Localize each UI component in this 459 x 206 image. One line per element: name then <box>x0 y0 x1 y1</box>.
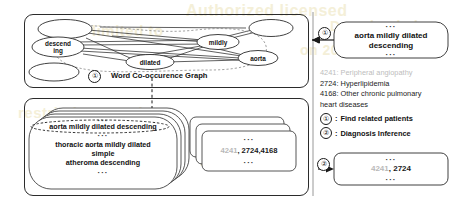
legend-item-1: ① : Find related patients <box>320 113 456 125</box>
graph-node-empty-top <box>38 20 92 39</box>
graph-node-label-aorta: aorta <box>241 55 275 62</box>
result-value-dark: 2724 <box>393 164 411 173</box>
result-box-bottom-dots: ··· <box>334 175 448 185</box>
code-card-top-dots: ··· <box>202 135 296 145</box>
code-value-dark: 2724,4168 <box>242 146 278 155</box>
diagnosis-item-0: 4241: Peripheral angiopathy <box>320 68 456 79</box>
result-value-muted: 4241 <box>371 164 389 173</box>
legend-label-1: Find related patients <box>340 114 412 123</box>
graph-node-empty-bottom <box>29 63 79 81</box>
graph-node-label-mildly: mildly <box>200 39 236 46</box>
graph-node-label-dilated: dilated <box>130 59 170 66</box>
graph-panel-caption: Word Co-occurence Graph <box>111 71 207 80</box>
legend-label-2: Diagnosis Inference <box>340 129 410 138</box>
code-card-bottom-dots: ··· <box>202 158 296 168</box>
graph-node-empty-right <box>249 20 293 37</box>
query-box-bottom-dots: ··· <box>334 50 448 60</box>
diagnosis-item-2: 4168: Other chronic pulmonary <box>320 89 456 100</box>
code-value-muted: 4241 <box>220 146 237 155</box>
diagnosis-list: 4241: Peripheral angiopathy 2724: Hyperl… <box>320 68 456 139</box>
report-bottom-dots: ··· <box>29 168 177 178</box>
step-marker-2-result: ② <box>317 158 330 171</box>
legend-marker-2-icon: ② <box>320 127 332 139</box>
step-marker-1-graph: ① <box>88 70 101 83</box>
diagnosis-item-1: 2724: Hyperlipidemia <box>320 79 456 90</box>
legend-item-2: ② : Diagnosis Inference <box>320 127 456 139</box>
graph-node-label-descending: descending <box>33 40 83 54</box>
report-line-3: atheroma descending <box>29 158 177 168</box>
code-card-values: 4241, 2724,4168 <box>202 146 296 155</box>
legend-marker-1-icon: ① <box>320 113 332 125</box>
step-marker-1-query: ① <box>318 27 331 40</box>
legend-separator-1: : <box>335 114 337 123</box>
figure-canvas: Authorized licensed use limited to Downl… <box>0 0 459 206</box>
legend-separator-2: : <box>335 129 337 138</box>
diagnosis-item-3: heart diseases <box>320 100 456 111</box>
query-box-line-1: aorta mildly dilated <box>334 31 448 41</box>
result-box-values: 4241, 2724 <box>334 164 448 173</box>
